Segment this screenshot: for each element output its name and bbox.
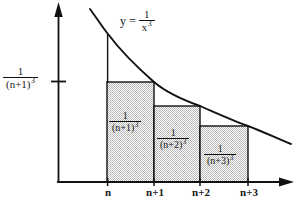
rectangle-1-fraction: 1 (n+1)3	[109, 111, 141, 133]
x-axis-tick-label-n-plus-1: n+1	[138, 187, 172, 198]
rectangle-3-denominator-exponent: 3	[229, 154, 233, 162]
curve-equation-label: y = 1 x3	[120, 9, 155, 33]
rectangle-1-denominator: (n+1)3	[109, 122, 141, 133]
integral-test-figure: y = 1 x3 1 (n+1)3 1 (n+1)3 1 (n+2)3 1 (n…	[0, 0, 300, 215]
curve-equation-denominator: x3	[139, 21, 155, 33]
y-axis	[51, 2, 66, 182]
x-axis-tick-label-n-plus-2: n+2	[184, 187, 218, 198]
rectangle-1-denominator-base: (n+1)	[112, 122, 134, 133]
curve-equation-lhs: y =	[120, 15, 136, 27]
rectangle-1-denominator-exponent: 3	[134, 121, 138, 129]
rectangle-2-area-label: 1 (n+2)3	[157, 128, 189, 150]
y-axis-value-denominator: (n+1)3	[3, 78, 38, 90]
rectangle-3-area-label: 1 (n+3)3	[204, 144, 236, 166]
y-axis-value-denominator-base: (n+1)	[6, 78, 31, 90]
y-axis-value-fraction: 1 (n+1)3	[3, 66, 38, 90]
rectangle-2-fraction: 1 (n+2)3	[157, 128, 189, 150]
curve-equation-denominator-exponent: 3	[147, 19, 151, 28]
rectangle-1-area-label: 1 (n+1)3	[109, 111, 141, 133]
y-axis-value-denominator-exponent: 3	[31, 76, 35, 85]
rectangle-3-denominator-base: (n+3)	[207, 155, 229, 166]
curve-equation-fraction: 1 x3	[139, 9, 155, 33]
rectangle-2-denominator-base: (n+2)	[160, 139, 182, 150]
rectangle-3-fraction: 1 (n+3)3	[204, 144, 236, 166]
rectangle-2-denominator: (n+2)3	[157, 139, 189, 150]
rectangle-3-denominator: (n+3)3	[204, 155, 236, 166]
x-axis-tick-label-n-plus-3: n+3	[232, 187, 266, 198]
rectangle-2-denominator-exponent: 3	[182, 138, 186, 146]
y-axis-value-label: 1 (n+1)3	[3, 66, 38, 90]
x-axis-tick-label-n: n	[98, 187, 118, 198]
